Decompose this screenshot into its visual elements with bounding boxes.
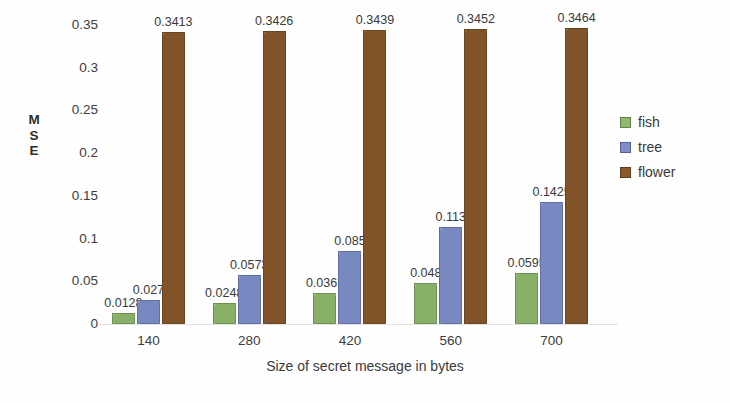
legend-swatch-icon-tree <box>620 142 631 153</box>
y-axis-tick-label: 0.2 <box>79 146 98 160</box>
y-axis: 00.050.10.150.20.250.30.35 <box>42 0 98 403</box>
bar-group: 0.01280.0270.3413 <box>98 25 199 324</box>
bar-fish <box>515 273 538 324</box>
plot-area: 0.01280.0270.34130.02480.05730.34260.036… <box>98 25 602 324</box>
y-axis-tick-label: 0.15 <box>72 189 98 203</box>
bar-value-label-flower: 0.3452 <box>446 13 506 26</box>
bar-flower <box>162 32 185 324</box>
legend-label-fish: fish <box>638 115 660 130</box>
bar-fish <box>414 283 437 324</box>
legend-swatch-icon-fish <box>620 117 631 128</box>
bar-tree <box>137 300 160 324</box>
bar-fish <box>112 313 135 324</box>
bar-group: 0.03620.0850.3439 <box>300 25 401 324</box>
bar-flower <box>565 28 588 324</box>
y-axis-tick-label: 0.3 <box>79 61 98 75</box>
x-axis-tick-label: 420 <box>315 333 385 348</box>
bar-tree <box>439 227 462 324</box>
legend: fish tree flower <box>620 110 720 185</box>
bar-value-label-flower: 0.3413 <box>143 16 203 29</box>
legend-item-fish[interactable]: fish <box>620 110 720 135</box>
bar-tree <box>338 251 361 324</box>
bar-group: 0.02480.05730.3426 <box>199 25 300 324</box>
bar-chart: 00.050.10.150.20.250.30.35 M S E 0.01280… <box>0 0 730 403</box>
bar-tree <box>238 275 261 324</box>
y-axis-tick-label: 0.1 <box>79 232 98 246</box>
y-axis-tick-label: 0.05 <box>72 274 98 288</box>
legend-label-flower: flower <box>638 165 675 180</box>
x-axis-tick-label: 280 <box>214 333 284 348</box>
y-axis-tick-label: 0.25 <box>72 103 98 117</box>
bar-fish <box>213 303 236 324</box>
bar-flower <box>363 30 386 324</box>
bar-group: 0.05950.14250.3464 <box>501 25 602 324</box>
x-axis-tick-label: 560 <box>416 333 486 348</box>
x-axis-baseline <box>98 324 618 325</box>
legend-swatch-icon-flower <box>620 167 631 178</box>
x-axis-title: Size of secret message in bytes <box>0 358 730 374</box>
bar-group: 0.0480.1130.3452 <box>400 25 501 324</box>
bar-fish <box>313 293 336 324</box>
legend-label-tree: tree <box>638 140 662 155</box>
legend-item-flower[interactable]: flower <box>620 160 720 185</box>
y-axis-tick-label: 0.35 <box>72 18 98 32</box>
x-axis-tick-label: 140 <box>113 333 183 348</box>
y-axis-title-letter-m: M <box>26 112 42 128</box>
y-axis-tick-label: 0 <box>90 317 98 331</box>
y-axis-title: M S E <box>26 112 42 159</box>
bar-value-label-flower: 0.3426 <box>244 15 304 28</box>
y-axis-title-letter-s: S <box>26 128 42 144</box>
bar-tree <box>540 202 563 324</box>
bar-flower <box>464 29 487 324</box>
bar-value-label-flower: 0.3439 <box>345 14 405 27</box>
x-axis-tick-label: 700 <box>517 333 587 348</box>
legend-item-tree[interactable]: tree <box>620 135 720 160</box>
bar-flower <box>263 31 286 324</box>
bar-value-label-flower: 0.3464 <box>547 12 607 25</box>
y-axis-title-letter-e: E <box>26 143 42 159</box>
